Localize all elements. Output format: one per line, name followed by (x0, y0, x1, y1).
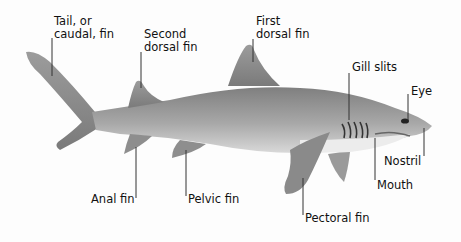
label-eye: Eye (411, 85, 432, 98)
pelvic-fin-shape (172, 140, 206, 158)
label-gill-slits: Gill slits (352, 61, 397, 74)
label-anal-fin: Anal fin (91, 193, 135, 206)
label-tail-fin: Tail, or caudal, fin (54, 15, 114, 41)
tail-fin (26, 52, 98, 150)
label-first-dorsal-fin: First dorsal fin (256, 15, 310, 41)
anal-fin-shape (124, 134, 152, 154)
label-pelvic-fin: Pelvic fin (188, 193, 239, 206)
first-dorsal-fin (228, 45, 280, 86)
label-mouth: Mouth (377, 179, 413, 192)
label-pectoral-fin: Pectoral fin (305, 212, 370, 225)
small-ventral-fin (328, 152, 350, 182)
label-second-dorsal-fin: Second dorsal fin (144, 28, 198, 54)
label-nostril: Nostril (384, 155, 421, 168)
shark-diagram: Tail, or caudal, fin Second dorsal fin F… (0, 0, 461, 242)
